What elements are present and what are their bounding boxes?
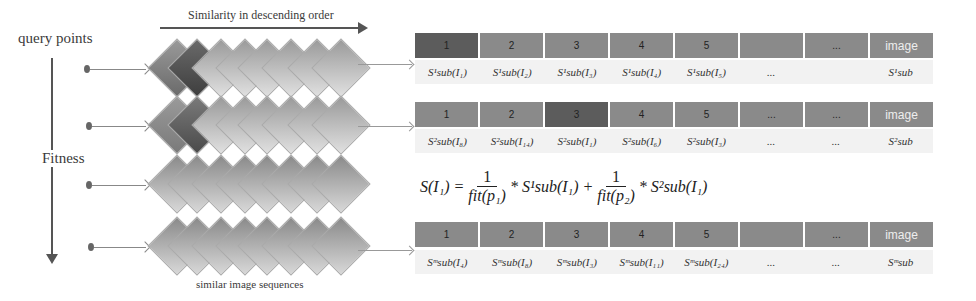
fraction-2: 1 fit(p₂) [597, 168, 635, 205]
score-cell: S²sub(I₁₄) [480, 129, 545, 153]
query-arrow-line [94, 247, 146, 248]
query-arrow-line [92, 185, 146, 186]
score-cell: ... [739, 60, 804, 84]
score-cell: Sᵐsub [868, 250, 933, 274]
fitness-arrow-head-icon [46, 254, 58, 264]
score-cell: Sᵐsub(I₄) [415, 250, 480, 274]
formula-term-1: * S¹sub(I₁) + [510, 178, 593, 196]
score-cell: S¹sub [868, 60, 933, 84]
image-sequence-4 [150, 216, 370, 278]
score-cell: ... [739, 129, 804, 153]
score-cell: S¹sub(I₄) [609, 60, 674, 84]
score-row-1: S¹sub(I₁) S¹sub(I₂) S¹sub(I₃) S¹sub(I₄) … [415, 60, 933, 84]
score-cell: S¹sub(I₃) [545, 60, 610, 84]
score-cell: Sᵐsub(I₃) [545, 250, 610, 274]
similarity-order-label: Similarity in descending order [188, 8, 334, 23]
fraction-numerator: 1 [477, 168, 497, 187]
rank-cell: ... [740, 102, 803, 127]
rank-cell: 5 [675, 102, 738, 127]
score-cell: S²sub(I₆) [609, 129, 674, 153]
image-sequence-1 [150, 38, 370, 100]
rank-cell-image: image [870, 222, 933, 247]
rank-cell: 3 [545, 222, 608, 247]
score-cell: ... [739, 250, 804, 274]
ranking-header-row-1: 1 2 3 4 5 ... image [415, 33, 935, 58]
arrow-head-icon [405, 122, 415, 132]
query-arrow-line [90, 69, 146, 70]
fraction-denominator: fit(p₂) [597, 187, 635, 205]
fitness-label: Fitness [42, 150, 85, 167]
fraction-1: 1 fit(p₁) [468, 168, 506, 205]
arrow-head-icon [405, 246, 415, 256]
rank-cell: 2 [480, 222, 543, 247]
aggregate-score-formula: S(I₁) = 1 fit(p₁) * S¹sub(I₁) + 1 fit(p₂… [420, 168, 707, 205]
ranking-header-row-2: 1 2 3 4 5 ... ... image [415, 102, 935, 127]
rank-cell: ... [805, 102, 868, 127]
rank-cell: 4 [610, 33, 673, 58]
sequences-label: similar image sequences [196, 278, 304, 290]
fraction-denominator: fit(p₁) [468, 187, 506, 205]
ranking-header-row-m: 1 2 3 4 5 ... image [415, 222, 935, 247]
rank-cell: 3 [545, 102, 608, 127]
rank-cell: 1 [415, 102, 478, 127]
rank-cell: 5 [675, 33, 738, 58]
rank-cell-image: image [870, 33, 933, 58]
query-points-label: query points [18, 30, 93, 47]
image-sequence-3 [150, 154, 370, 216]
score-row-2: S²sub(I₈) S²sub(I₁₄) S²sub(I₁) S²sub(I₆)… [415, 129, 933, 153]
score-cell: S²sub(I₈) [415, 129, 480, 153]
score-cell: S²sub(I₃) [674, 129, 739, 153]
rank-cell: 1 [415, 33, 478, 58]
rank-cell: 3 [545, 33, 608, 58]
score-cell: S¹sub(I₂) [480, 60, 545, 84]
formula-lhs: S(I₁) = [420, 178, 464, 196]
rank-cell: 2 [480, 33, 543, 58]
score-cell: S¹sub(I₁) [415, 60, 480, 84]
rank-cell: ... [805, 222, 868, 247]
similarity-arrow-head-icon [358, 22, 368, 34]
score-cell: S²sub [868, 129, 933, 153]
rank-cell: 1 [415, 222, 478, 247]
score-cell [804, 60, 869, 84]
rank-cell [740, 33, 803, 58]
score-row-m: Sᵐsub(I₄) Sᵐsub(I₈) Sᵐsub(I₃) Sᵐsub(I₁₁)… [415, 250, 933, 274]
rank-cell: ... [805, 33, 868, 58]
score-cell: Sᵐsub(I₂₄) [674, 250, 739, 274]
arrow-head-icon [405, 60, 415, 70]
similarity-arrow-line [160, 27, 360, 29]
fraction-numerator: 1 [606, 168, 626, 187]
rank-cell [740, 222, 803, 247]
rank-cell: 5 [675, 222, 738, 247]
query-arrow-line [92, 126, 146, 127]
score-cell: S¹sub(I₅) [674, 60, 739, 84]
image-sequence-2 [150, 95, 370, 157]
formula-term-2: * S²sub(I₁) [639, 178, 708, 196]
rank-cell-image: image [870, 102, 933, 127]
score-cell: Sᵐsub(I₁₁) [609, 250, 674, 274]
rank-cell: 4 [610, 102, 673, 127]
score-cell: S²sub(I₁) [545, 129, 610, 153]
score-cell: Sᵐsub(I₈) [480, 250, 545, 274]
score-cell: ... [804, 250, 869, 274]
rank-cell: 4 [610, 222, 673, 247]
rank-cell: 2 [480, 102, 543, 127]
score-cell: ... [804, 129, 869, 153]
